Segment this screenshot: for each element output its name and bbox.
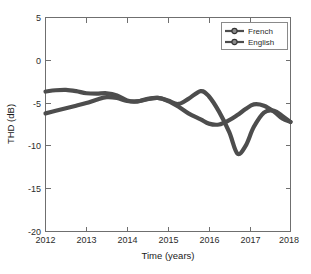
legend-marker-circle-icon <box>232 28 237 33</box>
chart-plot: 5 0 -5 -10 -15 -20 2012 2013 2014 2015 2… <box>0 0 311 274</box>
y-axis-tick-labels: 5 0 -5 -10 -15 -20 <box>28 13 41 237</box>
legend-marker-circle-icon <box>232 39 237 44</box>
x-tick-label: 2015 <box>158 235 178 245</box>
x-axis-tick-labels: 2012 2013 2014 2015 2016 2017 2018 <box>35 235 299 245</box>
y-axis-title: THD (dB) <box>5 104 16 144</box>
x-tick-label: 2013 <box>76 235 96 245</box>
x-tick-label: 2014 <box>117 235 137 245</box>
figure-canvas: 5 0 -5 -10 -15 -20 2012 2013 2014 2015 2… <box>0 0 311 274</box>
y-tick-label: -5 <box>33 99 41 109</box>
x-axis-title: Time (years) <box>142 250 195 261</box>
chart-legend[interactable]: French English <box>222 23 288 50</box>
legend-label-french: French <box>248 27 273 36</box>
x-tick-label: 2016 <box>199 235 219 245</box>
legend-label-english: English <box>248 38 274 47</box>
y-tick-label: -15 <box>28 184 41 194</box>
x-tick-label: 2018 <box>279 235 299 245</box>
y-tick-label: 0 <box>36 56 41 66</box>
series-group <box>46 90 291 154</box>
x-tick-label: 2012 <box>35 235 55 245</box>
series-line-english <box>46 97 291 125</box>
x-tick-label: 2017 <box>240 235 260 245</box>
y-tick-label: 5 <box>36 13 41 23</box>
y-tick-label: -10 <box>28 141 41 151</box>
